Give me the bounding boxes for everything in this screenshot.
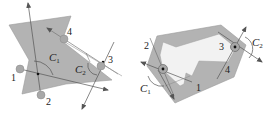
right-contact-dot-3 [234, 46, 237, 49]
left-finger-1 [16, 65, 24, 73]
left-finger-3 [97, 62, 105, 70]
right-label-4: 4 [225, 64, 230, 75]
left-intersection-point [37, 73, 40, 76]
right-label-3: 3 [219, 41, 224, 52]
left-figure: 1 2 3 4 C1 C2 [9, 3, 122, 109]
right-label-1: 1 [196, 82, 201, 93]
right-figure: 1 2 3 4 C1 C2 [140, 25, 263, 103]
left-polygon [9, 16, 112, 94]
left-finger-2 [37, 91, 45, 99]
right-contact-dot-2 [162, 68, 165, 71]
left-label-1: 1 [11, 72, 16, 83]
left-label-4: 4 [67, 26, 72, 37]
right-label-2: 2 [144, 40, 149, 51]
left-label-3: 3 [108, 54, 113, 65]
right-label-c2: C2 [252, 36, 263, 50]
right-label-c1: C1 [140, 82, 151, 96]
left-label-2: 2 [46, 96, 51, 107]
diagram-canvas: 1 2 3 4 C1 C2 1 2 3 4 C1 C2 [0, 0, 272, 119]
